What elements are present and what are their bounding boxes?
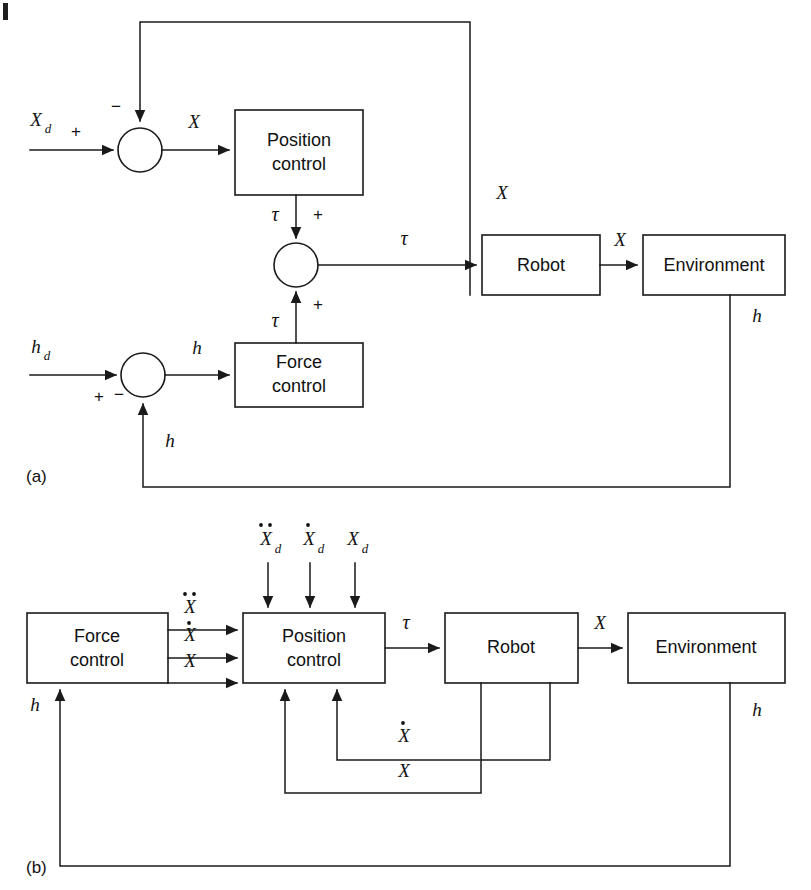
label-b-xdot-feedback-base: X [397, 725, 411, 746]
vel-ref-dot-1 [306, 523, 310, 527]
label-b-h-environment: h [752, 699, 762, 720]
label-a-hd-base: h [31, 336, 41, 357]
label-b-accel-ref-sub: d [275, 541, 282, 556]
summing-junction-torque [274, 243, 318, 287]
accel-cmd-dot-2 [192, 592, 196, 596]
xdot-feedback-dot-1 [401, 721, 405, 725]
label-b-pos-ref-base: X [346, 528, 360, 549]
sign-a-position-minus: − [111, 97, 121, 116]
label-b-vel-ref-sub: d [318, 541, 325, 556]
label-b-accel-cmd-base: X [183, 596, 197, 617]
label-b-accel-cmd: X [183, 592, 197, 617]
label-a-force-error: h [192, 337, 202, 358]
vel-cmd-dot-1 [187, 621, 191, 625]
label-a-tau-force: τ [271, 309, 279, 331]
accel-ref-dot-2 [268, 523, 272, 527]
panel-b-label: (b) [26, 858, 47, 877]
label-b-h-force-control: h [30, 694, 40, 715]
block-a-force-control-line2: control [272, 376, 326, 396]
label-b-vel-ref-base: X [302, 528, 316, 549]
sign-a-position-plus: + [71, 122, 81, 141]
panel-a-label: (a) [26, 467, 47, 486]
block-b-position-control-line2: control [287, 650, 341, 670]
page-corner-mark [3, 3, 8, 20]
label-b-tau: τ [402, 611, 410, 633]
label-a-x-robot-out: X [613, 229, 627, 250]
block-a-robot-label: Robot [517, 255, 565, 275]
sign-a-torque-plus-bottom: + [313, 295, 323, 314]
sign-a-torque-plus-top: + [313, 205, 323, 224]
label-b-accel-ref-base: X [259, 528, 273, 549]
label-a-h-feedback: h [165, 430, 175, 451]
block-b-force-control[interactable] [27, 613, 168, 683]
figure-root: X − X d + X Position control τ + τ Robot [0, 0, 811, 890]
label-a-x-feedback: X [495, 182, 509, 203]
block-b-environment-label: Environment [655, 637, 756, 657]
block-diagram-svg: X − X d + X Position control τ + τ Robot [0, 0, 811, 890]
label-b-x-feedback: X [397, 760, 411, 781]
block-b-robot-label: Robot [487, 637, 535, 657]
accel-ref-dot-1 [259, 523, 263, 527]
block-a-force-control-line1: Force [276, 352, 322, 372]
page-background [0, 0, 811, 890]
label-b-pos-cmd-base: X [183, 650, 197, 671]
label-a-position-error: X [187, 111, 201, 132]
label-a-xd-base: X [29, 109, 43, 130]
block-b-position-control[interactable] [243, 613, 385, 683]
block-a-position-control[interactable] [235, 110, 363, 195]
accel-cmd-dot-1 [183, 592, 187, 596]
block-b-position-control-line1: Position [282, 626, 346, 646]
block-a-environment-label: Environment [663, 255, 764, 275]
summing-junction-position-error [118, 128, 162, 172]
label-a-xd-sub: d [45, 121, 52, 136]
summing-junction-force-error [121, 353, 165, 397]
label-a-h-environment: h [752, 305, 762, 326]
block-b-force-control-line1: Force [74, 626, 120, 646]
sign-a-force-minus: − [114, 385, 124, 404]
label-b-xdot-feedback: X [397, 721, 411, 746]
block-b-force-control-line2: control [70, 650, 124, 670]
label-b-vel-cmd: X [183, 621, 197, 645]
label-b-vel-cmd-base: X [183, 624, 197, 645]
label-a-hd-sub: d [44, 348, 51, 363]
label-a-tau-robot: τ [400, 227, 408, 249]
sign-a-force-plus: + [94, 387, 104, 406]
block-a-position-control-line2: control [272, 154, 326, 174]
label-b-x-robot-out: X [593, 612, 607, 633]
label-b-pos-ref-sub: d [362, 541, 369, 556]
label-a-tau-position: τ [271, 203, 279, 225]
block-a-position-control-line1: Position [267, 130, 331, 150]
